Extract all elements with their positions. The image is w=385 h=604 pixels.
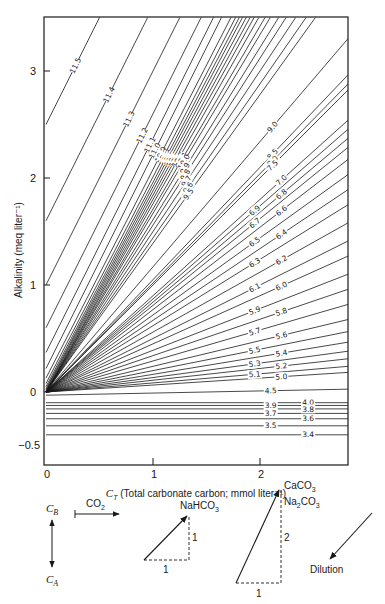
x-tick-label: 2 [258,468,264,480]
x-tick-label: 1 [151,468,157,480]
na2co3-label: Na2CO3 [284,496,320,509]
ph-isoline [46,18,265,393]
ph-isoline-label: 5.6 [275,330,289,342]
ph-isoline-label: 6.2 [274,253,289,267]
ph-isoline [46,18,279,393]
ph-isolines [46,18,348,435]
ph-isoline [46,18,259,393]
carbonate-dy: 2 [284,532,290,543]
ca-label: CA [46,573,58,588]
ph-isoline [46,18,254,393]
y-tick-label: −0.5 [18,439,40,451]
ph-isoline-label: 3.8 [302,405,314,414]
deffeyes-diagram: 11.511.411.311.211.111.010.910.810.710.6… [0,0,385,604]
ph-isoline-label: 3.5 [265,421,277,430]
y-tick-label: 1 [30,279,36,291]
carbonate-dx: 1 [256,588,262,599]
ph-isoline [46,129,348,392]
ph-isoline [46,175,348,392]
co2-label: CO2 [86,498,105,511]
ph-isoline-label: 3.4 [302,430,314,439]
nahco3-dy: 1 [192,532,198,543]
ph-isoline-label: 6.4 [274,227,289,241]
ph-isoline-label: 5.5 [248,345,262,356]
ph-isoline-label: 11.4 [101,85,117,104]
ph-isoline-label: 6.8 [274,187,289,202]
ph-isoline-label: 4.5 [265,386,277,395]
ph-isoline [46,147,348,392]
nahco3-arrow [144,516,187,560]
ph-isoline [46,75,348,392]
ph-isoline [46,90,348,392]
ph-isoline [46,18,306,393]
ph-isoline-label: 6.5 [247,235,262,249]
ph-isoline-label: 5.1 [248,369,261,379]
nahco3-dx: 1 [163,564,169,575]
ph-isoline-label: 5.2 [275,361,288,371]
cb-label: CB [46,502,58,517]
ph-isoline-label: 5.4 [275,348,288,359]
dilution-label: Dilution [310,564,343,575]
y-tick-label: 3 [30,65,36,77]
x-tick-label: 0 [44,468,50,480]
ph-isoline [46,389,348,395]
ph-isoline-label: 6.7 [247,216,262,231]
ph-isoline-label: 11.5 [68,56,84,75]
dilution-arrow [330,513,372,559]
ph-isoline [46,138,348,392]
carbonate-arrow [236,490,279,583]
x-axis-label: CT (Total carbonate carbon; mmol liter⁻¹… [106,487,286,501]
y-tick-label: 0 [30,386,36,398]
ph-isoline-label: 3.6 [302,414,314,423]
ph-isoline-label: 5.3 [248,359,261,370]
caco3-label: CaCO3 [284,480,316,493]
ph-isoline [46,120,348,392]
ph-isoline-label: 11.3 [121,110,137,129]
ph-isoline-label: 5.0 [275,372,288,382]
y-tick-label: 2 [30,172,36,184]
ph-isoline [46,274,348,392]
nahco3-label: NaHCO3 [180,500,219,513]
ph-isoline-label: 3.7 [265,409,277,418]
y-axis-label: Alkalinity (meq liter⁻¹) [13,202,24,298]
